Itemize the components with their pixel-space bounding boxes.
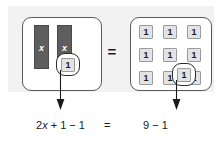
equation-left-expression: 2x + 1 − 1 [36, 118, 85, 132]
x-tile: x [34, 25, 49, 69]
unit-tile: 1 [139, 71, 153, 85]
balance-equals-sign: = [106, 47, 118, 57]
equation-relation-sign: = [104, 118, 110, 132]
unit-tile: 1 [187, 25, 201, 39]
unit-tile: 1 [139, 25, 153, 39]
unit-tile: 1 [163, 25, 177, 39]
right-side-group: 1 1 1 1 1 1 1 1 1 [130, 17, 212, 91]
down-arrow-icon-right [172, 80, 181, 112]
unit-tile: 1 [187, 48, 201, 62]
equation-left-terms: + 1 − 1 [48, 119, 85, 131]
equation-row: 2x + 1 − 1 = 9 − 1 [0, 118, 222, 138]
down-arrow-icon-left [56, 70, 65, 112]
unit-tile: 1 [139, 48, 153, 62]
unit-tile: 1 [163, 48, 177, 62]
equation-right-expression: 9 − 1 [143, 118, 168, 132]
algebra-tile-model-panel: x x 1 = 1 1 1 1 1 1 1 1 1 1 [8, 6, 214, 92]
